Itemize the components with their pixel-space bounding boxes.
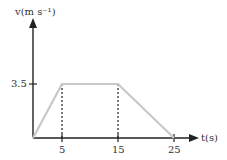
- x-tick-label: 5: [59, 145, 65, 155]
- y-axis-arrow-icon: [29, 18, 37, 28]
- x-axis-arrow-icon: [189, 134, 199, 142]
- velocity-line: [33, 84, 174, 138]
- y-axis-label: v(m s⁻¹): [15, 7, 56, 17]
- velocity-time-graph: [0, 0, 227, 160]
- x-tick-label: 15: [112, 145, 125, 155]
- y-tick-label: 3.5: [11, 79, 27, 89]
- x-tick-label: 25: [168, 145, 181, 155]
- x-axis-label: t(s): [201, 133, 218, 143]
